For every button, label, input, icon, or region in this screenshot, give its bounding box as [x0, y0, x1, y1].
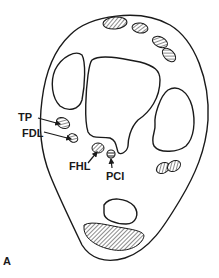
- label-pci: PCI: [106, 170, 124, 182]
- fdl-arrow: [44, 132, 71, 139]
- tendon-top-4: [160, 46, 178, 64]
- panel-label: A: [3, 255, 11, 267]
- pci-vessel: [107, 150, 115, 158]
- tendon-top-2: [131, 22, 148, 34]
- label-tp: TP: [18, 111, 32, 123]
- peroneal-tendon-2: [165, 158, 182, 174]
- achilles-tendon: [84, 223, 144, 250]
- label-fhl: FHL: [69, 160, 91, 172]
- bone-right: [153, 88, 194, 151]
- label-fdl: FDL: [22, 127, 44, 139]
- bone-central: [86, 57, 160, 154]
- pci-arrow: [111, 159, 112, 168]
- bone-left: [52, 53, 84, 109]
- fhl-tendon: [92, 143, 104, 153]
- cross-section-diagram: TP FDL FHL PCI A: [0, 0, 219, 278]
- tendon-top-3: [151, 34, 170, 50]
- lower-oval: [104, 199, 137, 224]
